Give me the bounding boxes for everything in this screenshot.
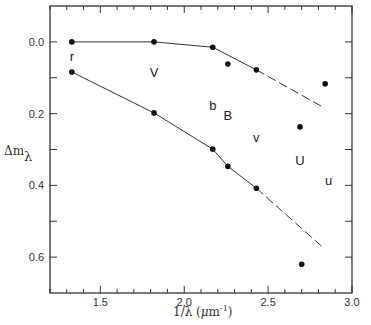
band-label-U: U	[295, 153, 304, 168]
data-point	[299, 262, 305, 268]
data-point	[254, 185, 260, 191]
band-label-r: r	[70, 49, 75, 64]
chart: 1.52.02.53.00.00.20.40.6 rVbBvUu 1/λ (μm…	[0, 0, 371, 325]
x-tick-label: 2.5	[260, 296, 275, 308]
axis-ticks: 1.52.02.53.00.00.20.40.6	[29, 6, 360, 308]
data-point	[225, 164, 231, 170]
data-point	[151, 39, 157, 45]
data-series	[69, 39, 322, 246]
series-extrapolation-lower	[256, 188, 321, 246]
band-label-u: u	[325, 173, 332, 188]
band-annotations: rVbBvUu	[70, 49, 332, 188]
data-point	[297, 124, 303, 130]
data-point	[69, 69, 75, 75]
series-line-lower	[72, 72, 257, 188]
data-point	[210, 44, 216, 50]
x-tick-label: 1.5	[93, 296, 108, 308]
y-axis-title: Δmλ	[4, 144, 32, 164]
band-label-B: B	[224, 108, 233, 123]
data-point	[225, 61, 231, 67]
y-tick-label: 0.2	[29, 108, 44, 120]
band-label-b: b	[209, 98, 216, 113]
data-point	[322, 81, 328, 87]
band-label-V: V	[150, 65, 159, 80]
x-axis-title: 1/λ (μm-1)	[173, 304, 232, 319]
y-tick-label: 0.0	[29, 36, 44, 48]
series-extrapolation-upper	[256, 70, 321, 107]
extra-points	[225, 61, 328, 267]
band-label-v: v	[253, 130, 260, 145]
plot-frame	[50, 6, 352, 293]
y-tick-label: 0.6	[29, 251, 44, 263]
y-tick-label: 0.4	[29, 179, 44, 191]
x-tick-label: 3.0	[344, 296, 359, 308]
plot-border	[50, 6, 352, 293]
data-point	[69, 39, 75, 45]
data-point	[254, 67, 260, 73]
data-point	[210, 146, 216, 152]
data-point	[151, 110, 157, 116]
